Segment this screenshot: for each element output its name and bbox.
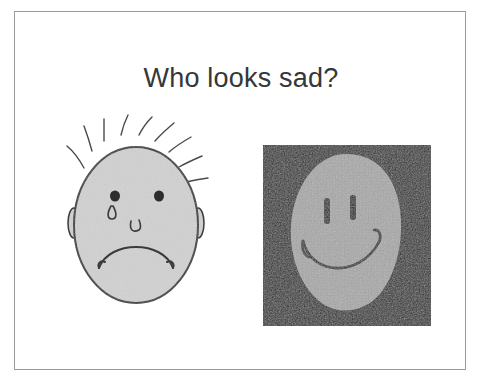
eye-icon-right <box>350 195 356 220</box>
slide-frame: Who looks sad? <box>14 11 466 370</box>
slide-root: Who looks sad? <box>0 0 484 386</box>
happy-face-photo[interactable] <box>263 145 431 326</box>
sad-face-drawing[interactable] <box>51 110 221 320</box>
head-outline-icon <box>74 147 198 303</box>
eye-icon-left <box>110 191 120 202</box>
face-blob-icon <box>291 154 401 311</box>
eye-icon-right <box>154 191 164 202</box>
eye-icon-left <box>324 198 330 224</box>
page-title: Who looks sad? <box>15 63 467 94</box>
